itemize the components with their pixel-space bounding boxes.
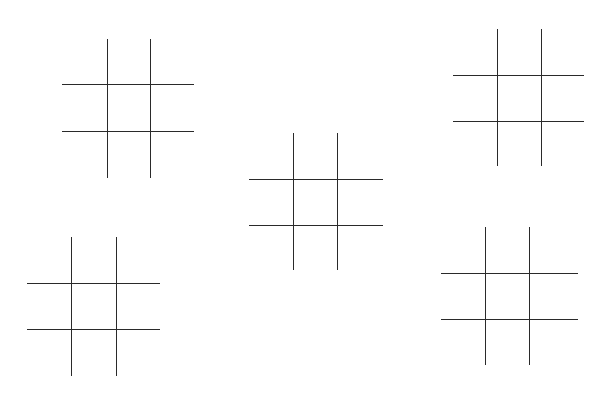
cell-mark <box>454 30 497 75</box>
grid-line-vertical <box>150 39 151 178</box>
board-cell[interactable] <box>442 228 485 273</box>
cell-mark <box>151 132 194 178</box>
cell-mark <box>28 284 71 329</box>
board-cell[interactable] <box>63 40 107 84</box>
cell-mark <box>338 226 383 270</box>
grid-line-vertical <box>485 227 486 365</box>
board-cell[interactable] <box>442 274 485 319</box>
board-cell[interactable] <box>486 274 529 319</box>
board-cell[interactable] <box>250 180 293 225</box>
board-cell[interactable] <box>498 76 541 121</box>
cell-mark <box>28 330 71 376</box>
cell-mark <box>338 134 383 179</box>
grid-line-vertical <box>107 39 108 178</box>
board-cell[interactable] <box>454 30 497 75</box>
board-cell[interactable] <box>338 226 383 270</box>
cell-mark <box>486 320 529 365</box>
board-cell[interactable] <box>72 238 116 283</box>
cell-mark <box>294 226 337 270</box>
grid-line-vertical <box>541 29 542 166</box>
cell-mark <box>530 274 578 319</box>
cell-mark <box>498 122 541 166</box>
board-cell[interactable] <box>338 134 383 179</box>
cell-mark <box>63 132 107 178</box>
cell-mark <box>442 228 485 273</box>
board-cell[interactable] <box>108 40 150 84</box>
grid-line-vertical <box>497 29 498 166</box>
board-cell[interactable] <box>338 180 383 225</box>
cell-mark <box>108 85 150 131</box>
cell-mark <box>542 30 584 75</box>
grid-line-vertical <box>529 227 530 365</box>
board-cell[interactable] <box>151 132 194 178</box>
cell-mark <box>108 40 150 84</box>
grid-line-horizontal <box>441 273 578 274</box>
board-cell[interactable] <box>151 40 194 84</box>
board-cell[interactable] <box>294 134 337 179</box>
grid-line-horizontal <box>453 75 584 76</box>
cell-mark <box>498 76 541 121</box>
board-cell[interactable] <box>294 180 337 225</box>
cell-mark <box>250 134 293 179</box>
board-cell[interactable] <box>28 238 71 283</box>
cell-mark <box>250 180 293 225</box>
board-cell[interactable] <box>454 76 497 121</box>
board-cell[interactable] <box>63 85 107 131</box>
board-cell[interactable] <box>498 30 541 75</box>
cell-mark <box>117 330 160 376</box>
board-cell[interactable] <box>28 330 71 376</box>
grid-line-horizontal <box>441 319 578 320</box>
cell-mark <box>151 40 194 84</box>
board-cell[interactable] <box>454 122 497 166</box>
grid-line-vertical <box>337 133 338 270</box>
board-cell[interactable] <box>108 85 150 131</box>
board-cell[interactable] <box>530 274 578 319</box>
cell-mark <box>530 320 578 365</box>
board-cell[interactable] <box>250 226 293 270</box>
cell-mark <box>542 122 584 166</box>
board-cell[interactable] <box>530 228 578 273</box>
board-cell[interactable] <box>63 132 107 178</box>
cell-mark <box>338 180 383 225</box>
board-cell[interactable] <box>117 238 160 283</box>
board-cell[interactable] <box>72 284 116 329</box>
cell-mark <box>530 228 578 273</box>
board-cell[interactable] <box>151 85 194 131</box>
board-cell[interactable] <box>530 320 578 365</box>
grid-line-horizontal <box>249 225 383 226</box>
board-cell[interactable] <box>542 30 584 75</box>
grid-line-vertical <box>116 237 117 376</box>
board-cell[interactable] <box>542 76 584 121</box>
board-cell[interactable] <box>486 320 529 365</box>
cell-mark <box>117 284 160 329</box>
grid-line-horizontal <box>27 283 160 284</box>
cell-mark <box>498 30 541 75</box>
grid-line-horizontal <box>62 131 194 132</box>
board-cell[interactable] <box>108 132 150 178</box>
cell-mark <box>542 76 584 121</box>
board-cell[interactable] <box>117 330 160 376</box>
board-cell[interactable] <box>542 122 584 166</box>
cell-mark <box>454 76 497 121</box>
cell-mark <box>486 228 529 273</box>
cell-mark <box>28 238 71 283</box>
board-cell[interactable] <box>486 228 529 273</box>
cell-mark <box>294 134 337 179</box>
board-cell[interactable] <box>498 122 541 166</box>
grid-line-horizontal <box>249 179 383 180</box>
cell-mark <box>442 274 485 319</box>
board-cell[interactable] <box>28 284 71 329</box>
board-cell[interactable] <box>117 284 160 329</box>
cell-mark <box>486 274 529 319</box>
grid-line-horizontal <box>27 329 160 330</box>
cell-mark <box>250 226 293 270</box>
board-cell[interactable] <box>72 330 116 376</box>
cell-mark <box>454 122 497 166</box>
board-cell[interactable] <box>294 226 337 270</box>
board-cell[interactable] <box>442 320 485 365</box>
grid-line-horizontal <box>62 84 194 85</box>
board-cell[interactable] <box>250 134 293 179</box>
cell-mark <box>294 180 337 225</box>
cell-mark <box>63 40 107 84</box>
cell-mark <box>108 132 150 178</box>
